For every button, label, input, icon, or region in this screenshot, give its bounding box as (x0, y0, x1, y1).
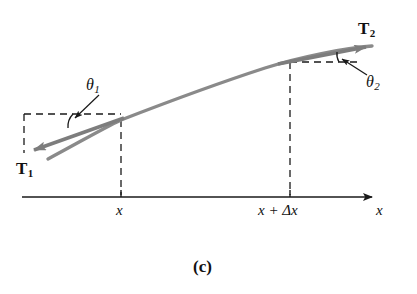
angle-arc-theta1 (68, 114, 73, 128)
axis-name-label: x (376, 203, 383, 218)
axis-tick-label-x: x (116, 203, 123, 218)
label-theta2-symbol: θ (366, 73, 374, 90)
label-T1-symbol: T (16, 159, 27, 178)
figure-container: T1 T2 θ1 θ2 x x + Δx x (c) (0, 0, 417, 294)
label-tension-T2: T2 (358, 20, 375, 39)
string-curve (48, 46, 372, 159)
label-angle-theta1: θ1 (86, 77, 100, 95)
label-theta2-subscript: 2 (374, 80, 380, 92)
tension-diagram-svg (0, 0, 417, 294)
label-tension-T1: T1 (16, 160, 33, 179)
label-theta1-subscript: 1 (94, 83, 100, 95)
label-theta1-symbol: θ (86, 76, 94, 93)
label-angle-theta2: θ2 (366, 74, 380, 92)
label-T1-subscript: 1 (27, 167, 33, 179)
label-T2-subscript: 2 (369, 27, 375, 39)
tension-vector-T1 (34, 118, 124, 150)
axis-tick-label-x-plus-dx: x + Δx (258, 203, 298, 218)
figure-caption: (c) (193, 258, 212, 275)
label-T2-symbol: T (358, 19, 369, 38)
